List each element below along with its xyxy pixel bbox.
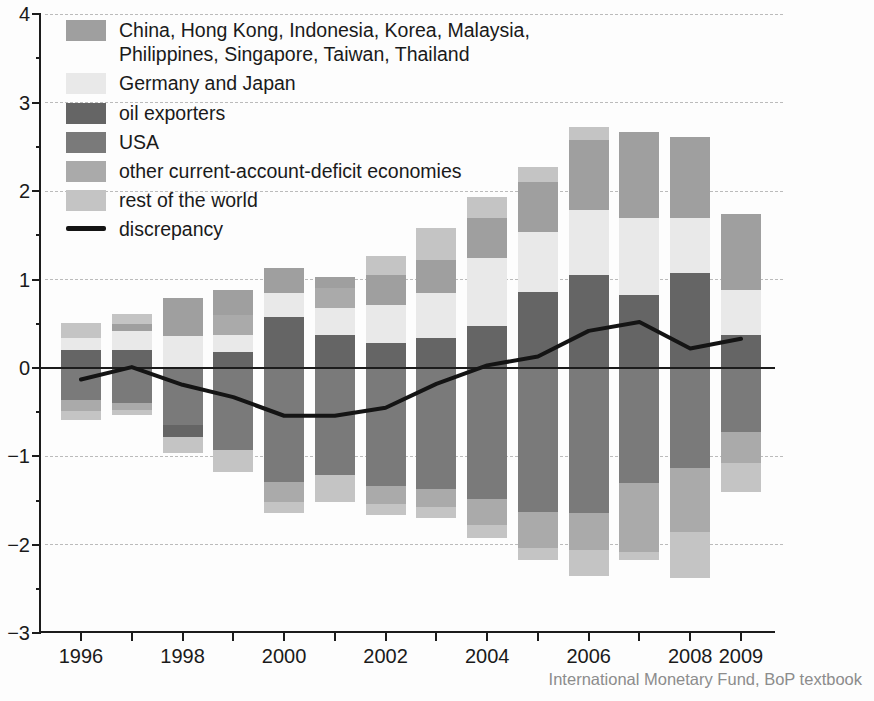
x-tick-2004 xyxy=(486,633,488,641)
bar-2000-segment-other_deficit xyxy=(264,482,304,501)
y-tick--1 xyxy=(32,455,41,457)
y-minor-tick xyxy=(36,323,41,325)
y-minor-tick xyxy=(36,57,41,59)
legend-label-usa: USA xyxy=(119,130,159,154)
y-minor-tick xyxy=(36,146,41,148)
legend-swatch-other-deficit xyxy=(66,161,106,182)
bar-2005-segment-oil_exporters xyxy=(518,292,558,368)
x-tick-2009 xyxy=(740,633,742,641)
bar-2007-segment-other_deficit xyxy=(619,483,659,552)
bar-2008-segment-oil_exporters xyxy=(670,273,710,368)
bar-2005-segment-rest_of_world xyxy=(518,548,558,560)
legend-item-discrepancy: discrepancy xyxy=(66,217,530,241)
bar-2009-segment-rest_of_world xyxy=(721,463,761,492)
legend-swatch-germany-japan xyxy=(66,73,106,94)
legend-item-germany-japan: Germany and Japan xyxy=(66,71,530,95)
bar-2000-segment-china_group xyxy=(264,268,304,293)
y-tick-4 xyxy=(32,13,41,15)
bar-1999-segment-china_group xyxy=(213,290,253,315)
bar-2009-segment-other_deficit xyxy=(721,432,761,463)
bar-2000-segment-germany_japan xyxy=(264,293,304,317)
bar-2008-segment-other_deficit xyxy=(670,468,710,532)
bar-1997-segment-china_group xyxy=(112,324,152,331)
bar-1996-segment-rest_of_world xyxy=(61,323,101,338)
y-tick-label-0: 0 xyxy=(0,356,30,380)
legend-item-rest-of-world: rest of the world xyxy=(66,188,530,212)
legend-swatch-china-group xyxy=(66,20,106,41)
x-tick-label-1996: 1996 xyxy=(49,644,113,668)
bar-2009-segment-oil_exporters xyxy=(721,335,761,368)
x-tick-2000 xyxy=(283,633,285,641)
legend-label-discrepancy: discrepancy xyxy=(119,217,223,241)
x-tick-1997 xyxy=(131,633,133,641)
x-tick-label-2004: 2004 xyxy=(455,644,519,668)
legend-label-germany-japan: Germany and Japan xyxy=(119,71,296,95)
bar-2006-segment-rest_of_world xyxy=(569,550,609,576)
legend-item-china-group: China, Hong Kong, Indonesia, Korea, Mala… xyxy=(66,18,530,66)
bar-2002-segment-germany_japan xyxy=(366,305,406,343)
bar-2004-segment-other_deficit xyxy=(467,499,507,526)
legend-swatch-discrepancy-line xyxy=(66,226,106,231)
bar-2001-segment-rest_of_world xyxy=(315,475,355,502)
y-tick-1 xyxy=(32,279,41,281)
bar-2000-segment-oil_exporters xyxy=(264,317,304,368)
x-tick-1999 xyxy=(232,633,234,641)
y-minor-tick xyxy=(36,234,41,236)
gridline-y4 xyxy=(45,14,783,15)
bar-2006-segment-china_group xyxy=(569,140,609,210)
zero-line xyxy=(41,367,775,369)
x-tick-1998 xyxy=(182,633,184,641)
bar-1997-segment-usa xyxy=(112,368,152,403)
x-tick-label-1998: 1998 xyxy=(151,644,215,668)
bar-2009-segment-china_group xyxy=(721,214,761,290)
bar-2007-segment-oil_exporters xyxy=(619,295,659,368)
bar-2001-segment-usa xyxy=(315,368,355,475)
x-axis xyxy=(39,631,775,633)
x-tick-2008 xyxy=(689,633,691,641)
legend-item-other-deficit: other current-account-deficit economies xyxy=(66,159,530,183)
bar-2006-segment-germany_japan xyxy=(569,210,609,275)
bar-1996-segment-germany_japan xyxy=(61,338,101,350)
bar-2001-segment-oil_exporters xyxy=(315,335,355,368)
legend-item-oil-exporters: oil exporters xyxy=(66,101,530,125)
legend-label-other-deficit: other current-account-deficit economies xyxy=(119,159,462,183)
bar-2002-segment-rest_of_world xyxy=(366,504,406,515)
x-tick-label-2002: 2002 xyxy=(354,644,418,668)
bar-1997-segment-other_deficit xyxy=(112,403,152,410)
x-tick-2002 xyxy=(385,633,387,641)
bar-2000-segment-rest_of_world xyxy=(264,502,304,513)
x-tick-2001 xyxy=(334,633,336,641)
y-minor-tick xyxy=(36,588,41,590)
bar-2002-segment-other_deficit xyxy=(366,486,406,504)
bar-1996-segment-other_deficit xyxy=(61,400,101,411)
bar-2008-segment-china_group xyxy=(670,137,710,217)
bar-2005-segment-usa xyxy=(518,368,558,512)
bar-2008-segment-usa xyxy=(670,368,710,468)
bar-2003-segment-other_deficit xyxy=(416,489,456,507)
bar-2006-segment-usa xyxy=(569,368,609,513)
bar-1996-segment-usa xyxy=(61,368,101,400)
y-tick--2 xyxy=(32,544,41,546)
bar-2003-segment-rest_of_world xyxy=(416,507,456,518)
bar-1999-segment-other_deficit xyxy=(213,315,253,335)
balance-of-payments-chart: 43210−1−2−319961998200020022004200620082… xyxy=(0,0,874,701)
bar-2003-segment-usa xyxy=(416,368,456,489)
bar-1998-segment-usa xyxy=(163,368,203,425)
y-minor-tick xyxy=(36,411,41,413)
legend-label-line1: China, Hong Kong, Indonesia, Korea, Mala… xyxy=(119,18,530,42)
x-tick-2003 xyxy=(435,633,437,641)
bar-2004-segment-rest_of_world xyxy=(467,525,507,537)
y-minor-tick xyxy=(36,500,41,502)
bar-1999-segment-oil_exporters xyxy=(213,352,253,368)
bar-2006-segment-oil_exporters xyxy=(569,275,609,368)
bar-2001-segment-germany_japan xyxy=(315,308,355,335)
bar-1997-segment-rest_of_world xyxy=(112,410,152,414)
bar-2002-segment-china_group xyxy=(366,275,406,305)
y-tick-0 xyxy=(32,367,41,369)
bar-2003-segment-china_group xyxy=(416,260,456,293)
y-tick-label-4: 4 xyxy=(0,2,30,26)
legend-label-line2: Philippines, Singapore, Taiwan, Thailand xyxy=(119,42,530,66)
x-tick-2006 xyxy=(588,633,590,641)
source-note: International Monetary Fund, BoP textboo… xyxy=(549,670,862,689)
bar-2004-segment-germany_japan xyxy=(467,258,507,325)
